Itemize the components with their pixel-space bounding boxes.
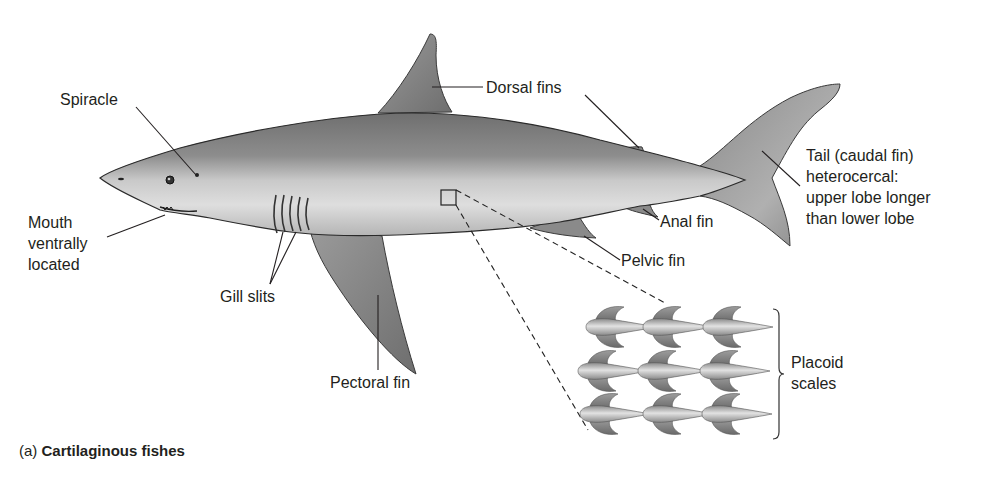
caption-prefix: (a) — [19, 442, 37, 459]
label-tail-line1: Tail (caudal fin) — [806, 145, 931, 166]
placoid-scales-illustration — [578, 307, 773, 435]
figure-caption: (a) Cartilaginous fishes — [19, 442, 185, 459]
pelvic-fin-leader — [584, 236, 620, 260]
gill-slits-leader-1 — [270, 232, 283, 284]
shark-diagram — [0, 0, 988, 490]
placoid-bracket — [773, 309, 784, 439]
label-spiracle: Spiracle — [60, 89, 118, 110]
label-pelvic-fin: Pelvic fin — [621, 250, 685, 271]
gill-slits-leader-2 — [270, 232, 296, 284]
label-pectoral-fin: Pectoral fin — [330, 372, 410, 393]
label-placoid-line2: scales — [791, 373, 843, 394]
label-tail-line3: upper lobe longer — [806, 187, 931, 208]
label-placoid-line1: Placoid — [791, 352, 843, 373]
first-dorsal-fin — [378, 34, 452, 113]
label-mouth-line1: Mouth — [28, 212, 88, 233]
label-gill-slits: Gill slits — [220, 286, 275, 307]
caption-title: Cartilaginous fishes — [42, 442, 185, 459]
eye — [166, 176, 174, 184]
label-tail: Tail (caudal fin) heterocercal: upper lo… — [806, 145, 931, 229]
label-mouth-line3: located — [28, 254, 88, 275]
label-tail-line2: heterocercal: — [806, 166, 931, 187]
pectoral-fin — [310, 230, 416, 374]
label-tail-line4: than lower lobe — [806, 208, 931, 229]
label-anal-fin: Anal fin — [660, 211, 713, 232]
nostril — [118, 178, 124, 181]
label-placoid-scales: Placoid scales — [791, 352, 843, 394]
label-mouth-line2: ventrally — [28, 233, 88, 254]
label-mouth: Mouth ventrally located — [28, 212, 88, 275]
mouth-leader — [107, 215, 165, 237]
label-dorsal-fins: Dorsal fins — [486, 77, 562, 98]
